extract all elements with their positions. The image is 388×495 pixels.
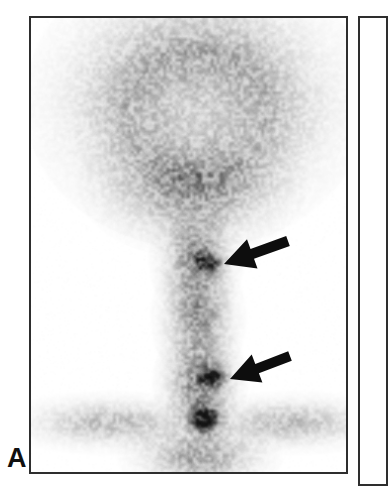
scintigram-image (31, 18, 346, 472)
panel-a-label: A (7, 443, 29, 473)
panel-a (29, 16, 348, 474)
panel-b (358, 16, 388, 486)
